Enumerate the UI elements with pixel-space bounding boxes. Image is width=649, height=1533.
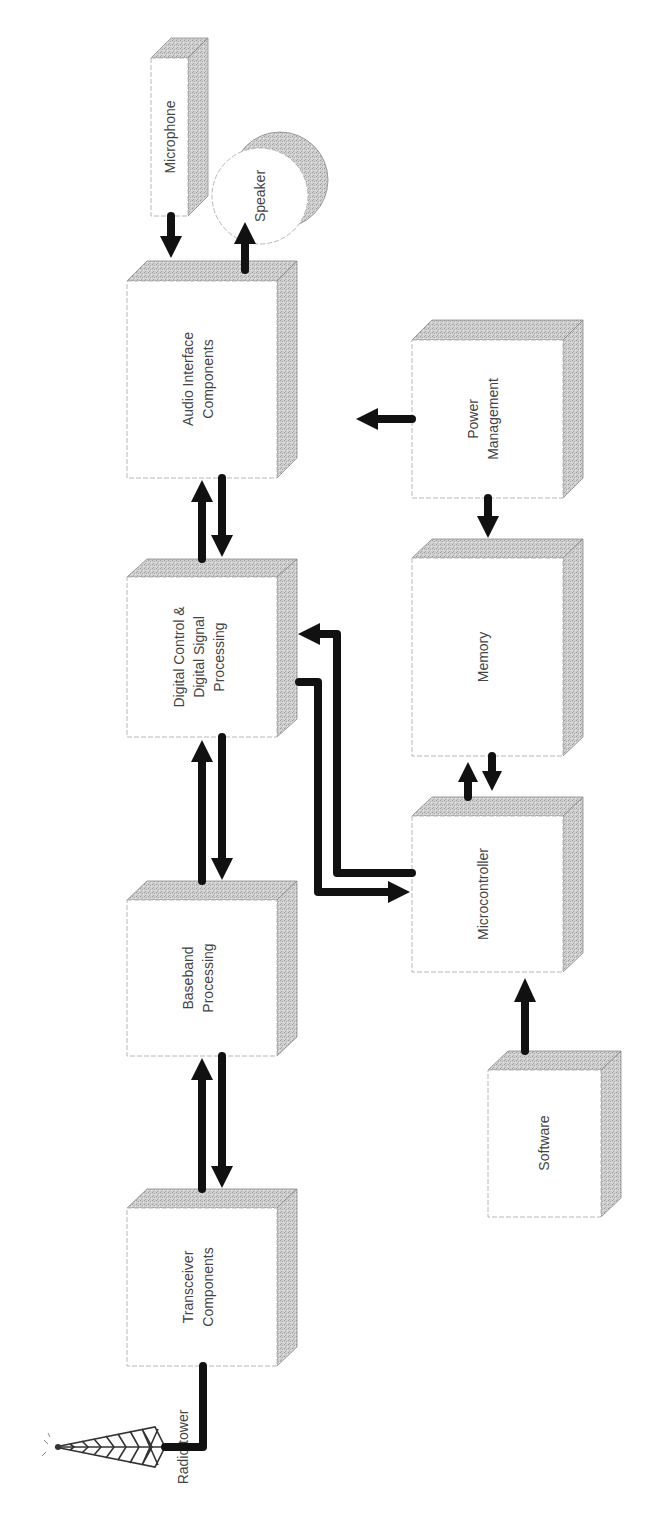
software-label: Software <box>536 1115 552 1170</box>
microphone-label: Microphone <box>162 100 178 173</box>
speaker-label: Speaker <box>252 170 268 222</box>
audio-label-line1: Audio Interface <box>180 332 196 426</box>
transceiver-label-line2: Components <box>200 1247 216 1326</box>
block-software: Software <box>488 1051 621 1217</box>
memory-label: Memory <box>475 632 491 683</box>
block-speaker: Speaker <box>212 132 328 244</box>
arrow-power-to-memory <box>477 498 499 538</box>
power-label-line1: Power <box>465 399 481 439</box>
arrow-software-to-microcontroller <box>514 978 536 1051</box>
transceiver-label-line1: Transceiver <box>180 1250 196 1323</box>
arrow-dsp-baseband-bidirectional <box>191 737 233 881</box>
dsp-label-line2: Digital Signal <box>191 616 207 698</box>
arrow-power-to-audio <box>356 408 412 430</box>
block-memory: Memory <box>412 539 583 756</box>
block-power-management: Power Management <box>412 320 583 498</box>
power-label-line2: Management <box>485 378 501 460</box>
arrow-baseband-transceiver-bidirectional <box>191 1056 233 1189</box>
block-transceiver: Transceiver Components <box>127 1189 297 1366</box>
block-microphone: Microphone <box>151 38 208 216</box>
dsp-label-line3: Processing <box>211 622 227 691</box>
arrow-audio-dsp-bidirectional <box>191 478 233 559</box>
baseband-label-line1: Baseband <box>180 946 196 1009</box>
block-baseband: Baseband Processing <box>127 881 297 1056</box>
block-dsp: Digital Control & Digital Signal Process… <box>127 559 297 737</box>
audio-label-line2: Components <box>200 339 216 418</box>
block-microcontroller: Microcontroller <box>412 797 583 972</box>
arrow-mic-to-audio <box>160 216 182 258</box>
arrow-microcontroller-memory-bidirectional <box>458 756 502 797</box>
block-audio-interface: Audio Interface Components <box>127 261 297 478</box>
phone-block-diagram: Microphone Speaker Audio Interface Compo… <box>0 0 649 1533</box>
microcontroller-label: Microcontroller <box>475 848 491 940</box>
baseband-label-line2: Processing <box>200 943 216 1012</box>
dsp-label-line1: Digital Control & <box>171 606 187 708</box>
